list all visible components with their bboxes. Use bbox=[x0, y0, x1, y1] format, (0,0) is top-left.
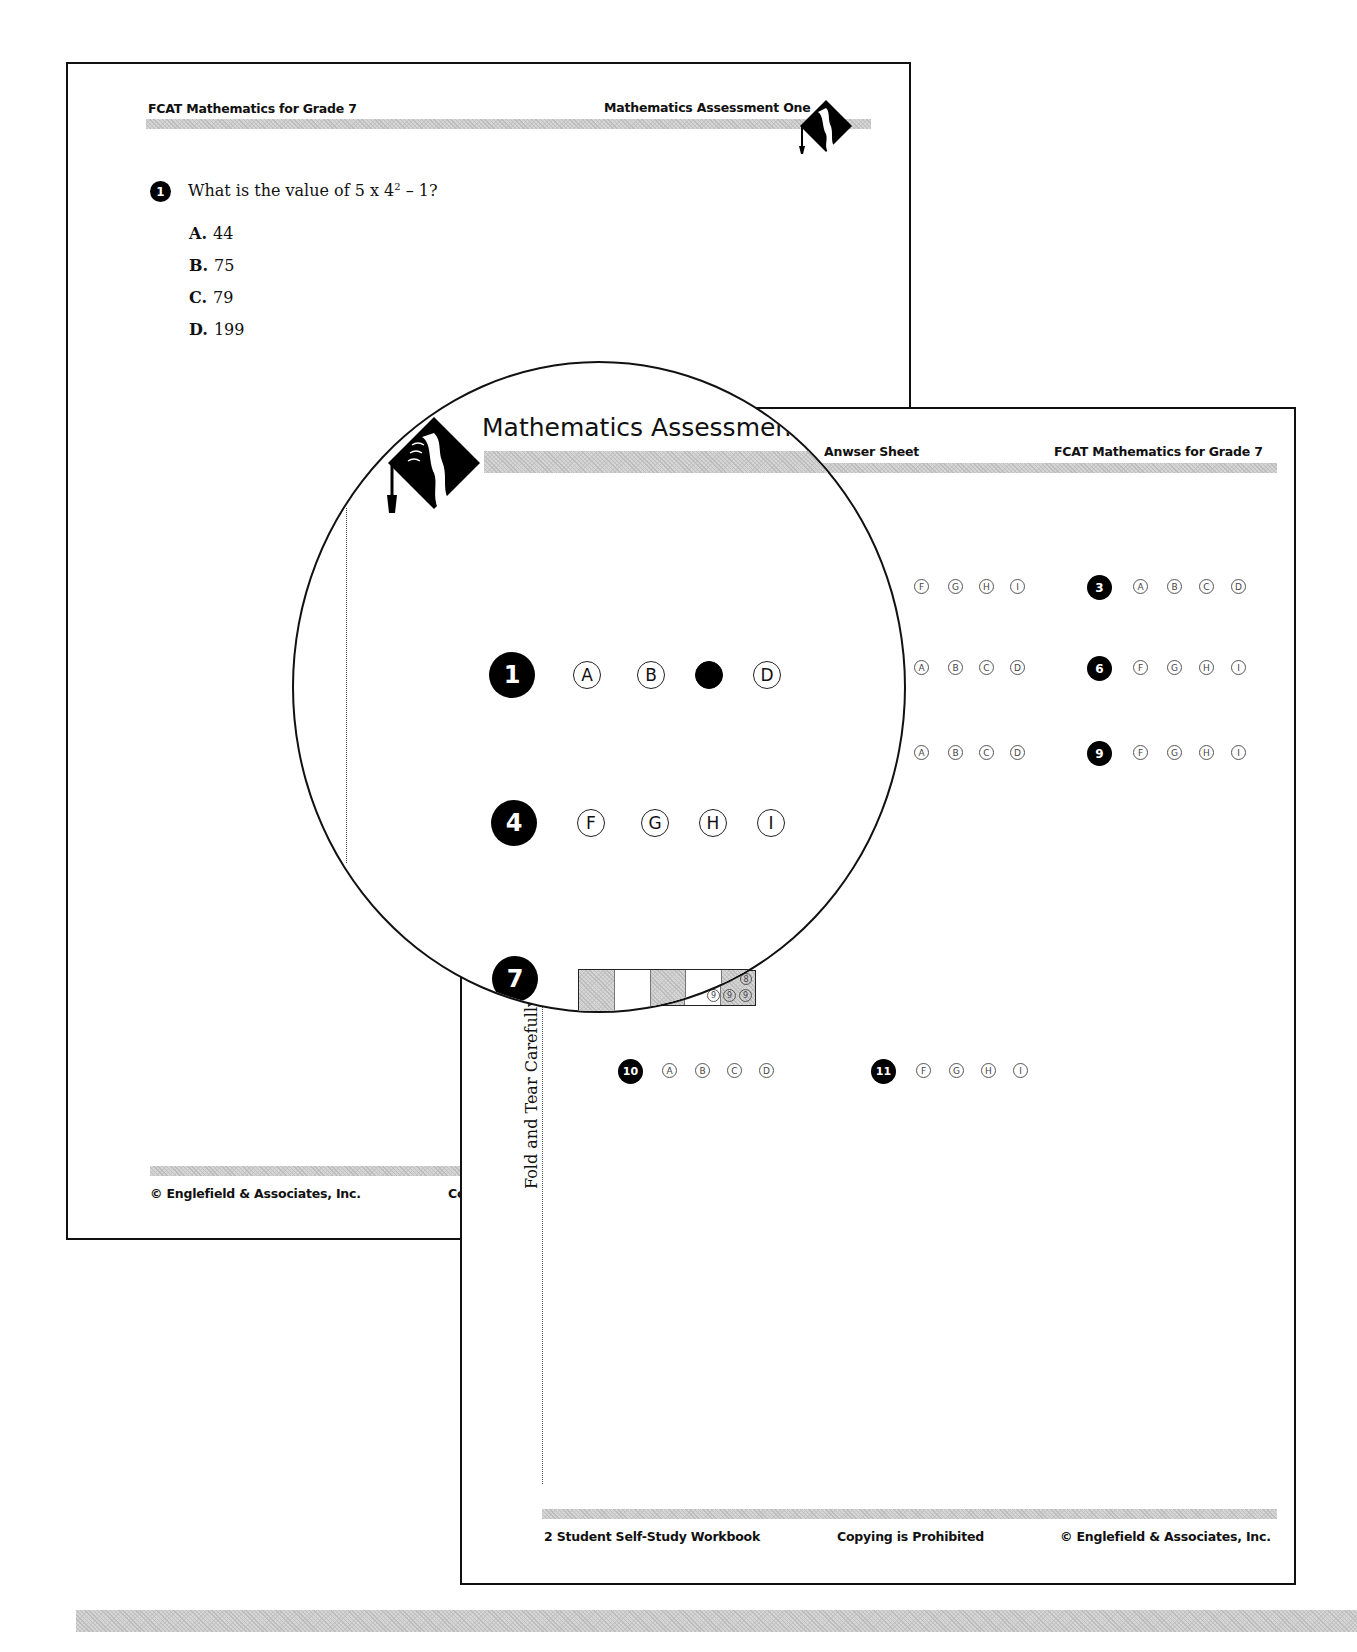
choice-a[interactable]: A.44 bbox=[189, 224, 233, 243]
bubble-11-h[interactable]: H bbox=[981, 1063, 996, 1078]
prompt-prefix: What is the value of 5 x 4 bbox=[188, 181, 394, 200]
bubble-5-c[interactable]: C bbox=[979, 660, 994, 675]
footer-copyright: © Englefield & Associates, Inc. bbox=[150, 1186, 361, 1201]
magnifier-question-4: 4 bbox=[491, 800, 537, 846]
bubble-5-a[interactable]: A bbox=[914, 660, 929, 675]
footer-workbook: 2 Student Self-Study Workbook bbox=[544, 1529, 760, 1544]
bubble-9-h[interactable]: H bbox=[1199, 745, 1214, 760]
magnifier-question-7: 7 bbox=[492, 956, 538, 1002]
choice-c[interactable]: C.79 bbox=[189, 288, 233, 307]
grid-column bbox=[579, 970, 615, 1013]
bubble-11-g[interactable]: G bbox=[949, 1063, 964, 1078]
bubble-8-b[interactable]: B bbox=[948, 745, 963, 760]
magnifier-lens: Mathematics Assessment 1 A B D 4 F G H I… bbox=[292, 361, 906, 1013]
footer-copyright: © Englefield & Associates, Inc. bbox=[1060, 1529, 1271, 1544]
bubble-3-d[interactable]: D bbox=[1231, 579, 1246, 594]
answer-number-9: 9 bbox=[1087, 741, 1112, 766]
answer-number-10: 10 bbox=[618, 1059, 643, 1084]
graduate-logo-icon bbox=[796, 98, 854, 156]
grid-column bbox=[686, 970, 722, 1013]
prompt-suffix: – 1? bbox=[401, 181, 438, 200]
magnifier-bubble-a[interactable]: A bbox=[573, 661, 601, 689]
magnifier-bubble-h[interactable]: H bbox=[699, 809, 727, 837]
bubble-3-a[interactable]: A bbox=[1133, 579, 1148, 594]
bubble-8-d[interactable]: D bbox=[1010, 745, 1025, 760]
answer-number-11: 11 bbox=[871, 1059, 896, 1084]
fold-instruction: Fold and Tear Carefully bbox=[522, 998, 541, 1189]
bubble-6-i[interactable]: I bbox=[1231, 660, 1246, 675]
choice-d[interactable]: D.199 bbox=[189, 320, 244, 339]
magnifier-bubble-c-selected[interactable] bbox=[695, 661, 723, 689]
answer-number-6: 6 bbox=[1087, 656, 1112, 681]
bubble-3-b[interactable]: B bbox=[1167, 579, 1182, 594]
bubble-10-c[interactable]: C bbox=[727, 1063, 742, 1078]
question-prompt: What is the value of 5 x 42 – 1? bbox=[188, 181, 438, 200]
bubble-2-h[interactable]: H bbox=[979, 579, 994, 594]
fold-line[interactable] bbox=[542, 964, 543, 1484]
magnifier-bubble-i[interactable]: I bbox=[757, 809, 785, 837]
bubble-2-g[interactable]: G bbox=[948, 579, 963, 594]
bubble-2-i[interactable]: I bbox=[1010, 579, 1025, 594]
bubble-10-a[interactable]: A bbox=[662, 1063, 677, 1078]
bubble-5-d[interactable]: D bbox=[1010, 660, 1025, 675]
magnifier-bubble-g[interactable]: G bbox=[641, 809, 669, 837]
magnifier-title: Mathematics Assessment bbox=[482, 413, 801, 442]
magnifier-bubble-f[interactable]: F bbox=[577, 809, 605, 837]
question-number-badge: 1 bbox=[150, 181, 171, 202]
bubble-10-b[interactable]: B bbox=[695, 1063, 710, 1078]
magnifier-bubble-d[interactable]: D bbox=[753, 661, 781, 689]
header-rule bbox=[146, 119, 871, 129]
bubble-8-a[interactable]: A bbox=[914, 745, 929, 760]
bubble-6-f[interactable]: F bbox=[1133, 660, 1148, 675]
bubble-9-i[interactable]: I bbox=[1231, 745, 1246, 760]
bubble-11-f[interactable]: F bbox=[916, 1063, 931, 1078]
choice-b[interactable]: B.75 bbox=[189, 256, 234, 275]
bubble-9-g[interactable]: G bbox=[1167, 745, 1182, 760]
answer-sheet-header-right: FCAT Mathematics for Grade 7 bbox=[1054, 444, 1263, 459]
footer-copying: Copying is Prohibited bbox=[837, 1529, 984, 1544]
magnifier-question-1: 1 bbox=[489, 652, 535, 698]
bubble-11-i[interactable]: I bbox=[1013, 1063, 1028, 1078]
magnifier-fold-line bbox=[346, 508, 347, 863]
bubble-9-f[interactable]: F bbox=[1133, 745, 1148, 760]
answer-sheet-footer-rule bbox=[542, 1509, 1277, 1519]
magnifier-bubble-b[interactable]: B bbox=[637, 661, 665, 689]
bubble-2-f[interactable]: F bbox=[914, 579, 929, 594]
header-right: Mathematics Assessment One bbox=[604, 100, 811, 115]
bubble-5-b[interactable]: B bbox=[948, 660, 963, 675]
answer-number-3: 3 bbox=[1087, 575, 1112, 600]
grid-column bbox=[722, 970, 757, 1013]
header-left: FCAT Mathematics for Grade 7 bbox=[148, 101, 357, 116]
grid-column bbox=[615, 970, 651, 1013]
bubble-3-c[interactable]: C bbox=[1199, 579, 1214, 594]
bubble-10-d[interactable]: D bbox=[759, 1063, 774, 1078]
bubble-6-h[interactable]: H bbox=[1199, 660, 1214, 675]
bottom-rule bbox=[76, 1610, 1357, 1632]
bubble-6-g[interactable]: G bbox=[1167, 660, 1182, 675]
grid-column bbox=[651, 970, 687, 1013]
magnifier-header-rule bbox=[484, 451, 906, 473]
graduate-logo-icon bbox=[382, 415, 482, 515]
bubble-8-c[interactable]: C bbox=[979, 745, 994, 760]
magnifier-grid-box bbox=[578, 969, 758, 1013]
